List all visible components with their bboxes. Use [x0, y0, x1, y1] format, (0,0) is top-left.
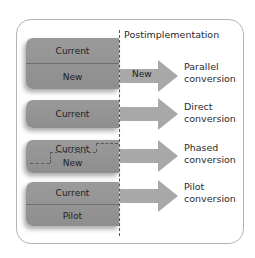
direct-arrow [120, 98, 178, 130]
method-line: conversion [184, 193, 236, 205]
pilot-pilot-cell: Pilot [26, 204, 119, 226]
parallel-new-cell: New [26, 63, 119, 89]
phased-step-line [50, 152, 51, 163]
postimplementation-label: Postimplementation [124, 29, 219, 40]
pilot-system-box: Current Pilot [26, 182, 119, 226]
pilot-arrow [120, 180, 178, 212]
pilot-current-cell: Current [26, 182, 119, 204]
parallel-arrow-label: New [132, 69, 152, 79]
phased-step-line [50, 152, 96, 153]
phased-arrow [120, 140, 178, 172]
method-line: Direct [184, 101, 236, 113]
method-line: conversion [184, 154, 236, 166]
method-line: Pilot [184, 181, 236, 193]
phased-system-box: Current New [26, 140, 119, 173]
method-line: conversion [184, 73, 236, 85]
method-line: Phased [184, 142, 236, 154]
parallel-conversion-label: Parallel conversion [184, 61, 236, 85]
pilot-conversion-label: Pilot conversion [184, 181, 236, 205]
arrow-right-icon [120, 98, 178, 130]
method-line: Parallel [184, 61, 236, 73]
parallel-current-cell: Current [26, 38, 119, 63]
phased-step-line [96, 143, 118, 144]
direct-system-box: Current [26, 100, 119, 128]
direct-current-cell: Current [26, 100, 119, 128]
method-line: conversion [184, 113, 236, 125]
parallel-system-box: Current New [26, 38, 119, 89]
phased-step-line [96, 143, 97, 152]
phased-step-line [30, 163, 50, 164]
phased-conversion-label: Phased conversion [184, 142, 236, 166]
parallel-arrow: New [120, 60, 178, 92]
arrow-right-icon [120, 140, 178, 172]
arrow-right-icon [120, 180, 178, 212]
direct-conversion-label: Direct conversion [184, 101, 236, 125]
